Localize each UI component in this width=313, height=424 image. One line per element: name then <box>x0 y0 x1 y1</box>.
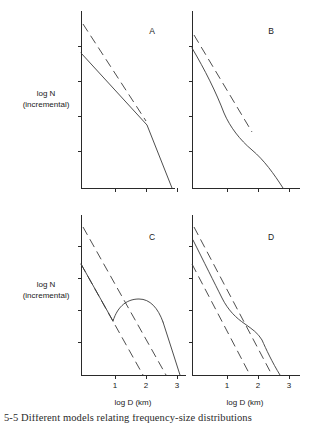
panel-B-axis-frame <box>192 11 300 188</box>
y-axis-label-bottom-line1: log N <box>37 280 56 289</box>
panel-B-x-ticks <box>227 188 289 192</box>
panel-A: A <box>78 11 177 192</box>
figure-caption: 5-5 Different models relating frequency-… <box>4 414 313 423</box>
panel-C: C 1 2 3 log D (km) <box>78 215 186 407</box>
panel-D-xtick-1: 1 <box>225 381 230 390</box>
panel-C-xtick-1: 1 <box>113 381 118 390</box>
panel-C-upper-power-law <box>83 227 166 375</box>
y-axis-label-bottom: log N (incremental) <box>23 280 70 300</box>
figure-root: A B <box>0 0 313 424</box>
four-panel-chart: A B <box>0 0 313 424</box>
panel-C-xtick-3: 3 <box>175 381 180 390</box>
y-axis-label-top-line1: log N <box>37 89 56 98</box>
panel-A-observed-curve <box>81 53 172 188</box>
y-axis-label-top-line2: (incremental) <box>23 100 70 109</box>
panel-C-x-axis-title: log D (km) <box>115 398 152 407</box>
panel-C-tail <box>163 322 180 375</box>
panel-D-xtick-3: 3 <box>287 381 292 390</box>
panel-A-reference-line <box>83 24 146 121</box>
panel-D-upper-power-law <box>194 227 272 375</box>
panel-C-x-ticks <box>115 375 177 379</box>
panel-D: D 1 2 3 log D (km) <box>189 215 300 407</box>
panel-D-lower-power-law <box>192 264 250 375</box>
panel-B-observed-curve <box>192 48 283 188</box>
panel-B: B <box>189 11 300 192</box>
panel-C-axis-frame <box>81 215 186 375</box>
panel-A-axis-frame <box>81 11 175 188</box>
panel-C-xtick-2: 2 <box>144 381 149 390</box>
y-axis-label-top: log N (incremental) <box>23 89 70 109</box>
panel-B-letter: B <box>268 26 274 36</box>
panel-D-xtick-2: 2 <box>256 381 261 390</box>
figure-caption-clip: 5-5 Different models relating frequency-… <box>0 414 313 424</box>
panel-C-letter: C <box>149 232 155 242</box>
panel-D-letter: D <box>268 232 274 242</box>
panel-C-bump-arc <box>113 299 163 322</box>
panel-B-reference-line <box>194 35 252 132</box>
panel-A-letter: A <box>149 26 155 36</box>
y-axis-label-bottom-line2: (incremental) <box>23 291 70 300</box>
panel-A-x-ticks <box>115 188 177 192</box>
panel-C-observed-curve <box>81 264 113 321</box>
panel-D-x-axis-title: log D (km) <box>227 398 264 407</box>
panel-D-x-ticks <box>227 375 289 379</box>
